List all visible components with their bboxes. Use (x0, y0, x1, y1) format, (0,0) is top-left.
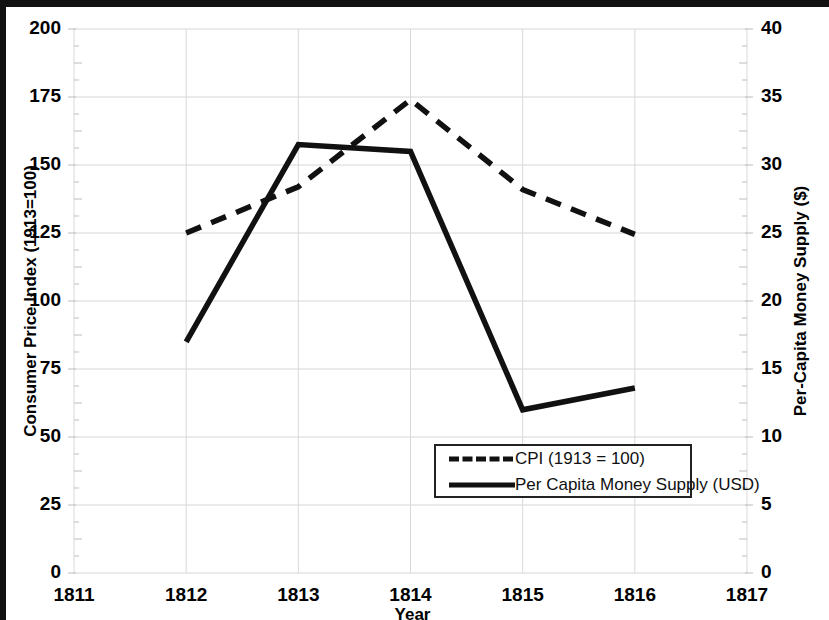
x-axis-tick-label: 1813 (277, 584, 319, 605)
x-axis-tick-label: 1816 (614, 584, 656, 605)
chart-plot-area: 0255075100125150175200 0510152025303540 … (6, 7, 829, 620)
legend-item-cpi: CPI (1913 = 100) (436, 446, 690, 472)
y-axis-left-tick-label: 0 (50, 561, 61, 582)
legend-label-money-supply: Per Capita Money Supply (USD) (515, 475, 760, 495)
y-axis-left-tick-label: 175 (29, 85, 61, 106)
y-axis-left-tick-label: 50 (40, 425, 61, 446)
x-axis-tick-labels: 1811181218131814181518161817 (53, 584, 768, 605)
x-axis-tick-label: 1814 (389, 584, 432, 605)
chart-svg: 0255075100125150175200 0510152025303540 … (6, 7, 829, 620)
x-axis-tick-label: 1812 (165, 584, 207, 605)
x-axis-tick-label: 1811 (53, 584, 95, 605)
y-axis-left-title: Consumer Price Index (1913=100) (21, 165, 40, 437)
y-axis-left-tick-label: 25 (40, 493, 62, 514)
x-axis-tick-label: 1815 (502, 584, 545, 605)
y-axis-right-tick-label: 25 (761, 221, 783, 242)
legend-item-money-supply: Per Capita Money Supply (USD) (436, 472, 690, 498)
legend-label-cpi: CPI (1913 = 100) (515, 449, 645, 469)
y-axis-right-tick-label: 15 (761, 357, 783, 378)
y-axis-right-tick-label: 30 (761, 153, 782, 174)
y-axis-right-tick-label: 40 (761, 17, 782, 38)
y-axis-right-tick-label: 20 (761, 289, 782, 310)
y-axis-left-tick-label: 75 (40, 357, 62, 378)
y-axis-left-tick-label: 200 (29, 17, 61, 38)
y-axis-right-tick-label: 35 (761, 85, 783, 106)
legend-swatch-dashed-icon (445, 450, 517, 468)
x-axis-title: Year (395, 605, 431, 620)
y-axis-right-tick-label: 5 (761, 493, 772, 514)
y-axis-right-tick-labels: 0510152025303540 (761, 17, 783, 582)
y-axis-right-tick-label: 10 (761, 425, 782, 446)
chart-legend: CPI (1913 = 100) Per Capita Money Supply… (434, 444, 692, 498)
legend-swatch-solid-icon (445, 476, 517, 494)
figure-frame: 0255075100125150175200 0510152025303540 … (0, 0, 829, 620)
y-axis-right-tick-label: 0 (761, 561, 772, 582)
x-axis-tick-label: 1817 (726, 584, 768, 605)
y-axis-right-title: Per-Capita Money Supply ($) (791, 186, 810, 416)
